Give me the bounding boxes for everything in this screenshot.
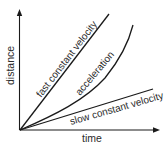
acceleration-label: acceleration (73, 49, 116, 97)
diagram-canvas: distance time fast constant velocity acc… (0, 0, 168, 151)
distance-time-diagram: distance time fast constant velocity acc… (0, 0, 168, 151)
x-axis-label: time (82, 132, 102, 144)
y-axis-label: distance (4, 46, 16, 85)
y-axis (17, 9, 22, 130)
y-axis-arrow-icon (17, 9, 22, 16)
x-axis-arrow-icon (153, 127, 160, 132)
